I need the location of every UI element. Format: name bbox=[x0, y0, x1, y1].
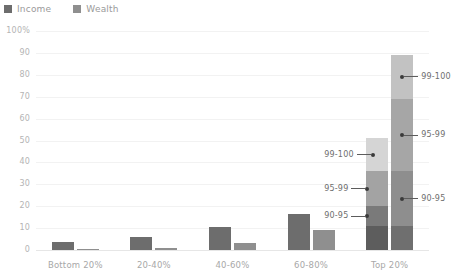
annotation-income-90-95: 90-95 bbox=[324, 211, 369, 221]
bar-segment-80-90[interactable] bbox=[366, 226, 388, 250]
annotation-label: 95-99 bbox=[324, 184, 348, 194]
x-axis-tick-label: 20-40% bbox=[109, 260, 199, 270]
square-swatch-icon bbox=[73, 5, 81, 13]
annotation-leader-line bbox=[404, 76, 418, 77]
legend-item-label: Wealth bbox=[86, 4, 118, 14]
gridline bbox=[36, 119, 429, 120]
annotation-dot bbox=[365, 187, 369, 191]
annotation-income-99-100: 99-100 bbox=[324, 150, 375, 160]
annotation-income-95-99: 95-99 bbox=[324, 184, 369, 194]
bar-wealth-3[interactable] bbox=[313, 230, 335, 250]
annotation-leader-line bbox=[357, 154, 371, 155]
y-axis-tick-label: 100% bbox=[0, 27, 30, 35]
chart-legend: Income Wealth bbox=[4, 3, 141, 15]
annotation-leader-line bbox=[404, 198, 418, 199]
bar-income-2[interactable] bbox=[209, 227, 231, 250]
annotation-label: 90-95 bbox=[324, 211, 348, 221]
y-axis-tick-label: 10 bbox=[0, 224, 30, 232]
y-axis-tick-label: 90 bbox=[0, 49, 30, 57]
legend-item-label: Income bbox=[17, 4, 51, 14]
annotation-leader-line bbox=[351, 216, 365, 217]
bar-wealth-1[interactable] bbox=[155, 248, 177, 250]
legend-item-wealth[interactable]: Wealth bbox=[73, 4, 118, 14]
gridline bbox=[36, 31, 429, 32]
bar-income-1[interactable] bbox=[130, 237, 152, 250]
y-axis-tick-label: 50 bbox=[0, 137, 30, 145]
bar-wealth-0[interactable] bbox=[77, 249, 99, 250]
annotation-leader-line bbox=[404, 135, 418, 136]
x-axis-tick-label: Top 20% bbox=[345, 260, 435, 270]
y-axis-tick-label: 20 bbox=[0, 202, 30, 210]
x-axis-tick-label: Bottom 20% bbox=[30, 260, 120, 270]
x-axis-tick-label: 40-60% bbox=[188, 260, 278, 270]
bar-segment-95-99[interactable] bbox=[366, 171, 388, 206]
axis-baseline bbox=[36, 250, 429, 251]
y-axis-tick-label: 30 bbox=[0, 180, 30, 188]
x-axis-tick-label: 60-80% bbox=[266, 260, 356, 270]
bar-wealth-2[interactable] bbox=[234, 243, 256, 250]
y-axis-tick-label: 80 bbox=[0, 71, 30, 79]
bar-segment-90-95[interactable] bbox=[366, 206, 388, 226]
y-axis-tick-label: 0 bbox=[0, 246, 30, 254]
annotation-dot bbox=[365, 214, 369, 218]
bar-wealth-4[interactable] bbox=[391, 55, 413, 250]
annotation-wealth-99-100: 99-100 bbox=[400, 72, 451, 82]
annotation-label: 99-100 bbox=[324, 150, 354, 160]
legend-item-income[interactable]: Income bbox=[4, 4, 51, 14]
annotation-wealth-95-99: 95-99 bbox=[400, 130, 445, 140]
annotation-label: 99-100 bbox=[421, 72, 451, 82]
annotation-wealth-90-95: 90-95 bbox=[400, 194, 445, 204]
annotation-label: 95-99 bbox=[421, 130, 445, 140]
bar-segment-80-90[interactable] bbox=[391, 226, 413, 250]
gridline bbox=[36, 75, 429, 76]
y-axis-tick-label: 40 bbox=[0, 158, 30, 166]
bar-income-0[interactable] bbox=[52, 242, 74, 250]
annotation-dot bbox=[371, 153, 375, 157]
annotation-leader-line bbox=[351, 188, 365, 189]
bar-income-3[interactable] bbox=[288, 214, 310, 250]
gridline bbox=[36, 97, 429, 98]
y-axis-tick-label: 60 bbox=[0, 115, 30, 123]
y-axis-tick-label: 70 bbox=[0, 93, 30, 101]
gridline bbox=[36, 53, 429, 54]
square-swatch-icon bbox=[4, 5, 12, 13]
annotation-label: 90-95 bbox=[421, 194, 445, 204]
